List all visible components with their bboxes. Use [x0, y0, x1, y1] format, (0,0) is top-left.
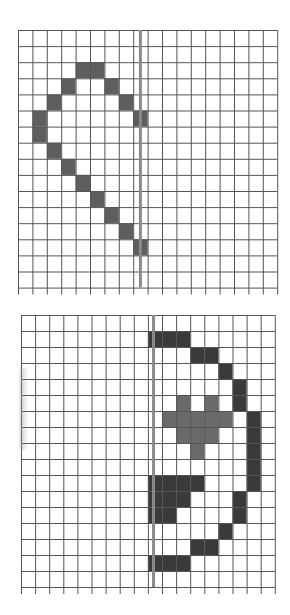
- filled-cell: [176, 555, 190, 571]
- filled-cell: [61, 159, 75, 175]
- filled-cell: [218, 523, 232, 539]
- filled-cell: [162, 555, 176, 571]
- filled-cell: [233, 379, 247, 395]
- filled-cell: [76, 62, 90, 78]
- filled-cell: [204, 427, 218, 443]
- filled-cell: [190, 427, 204, 443]
- filled-cell: [218, 363, 232, 379]
- filled-cell: [190, 347, 204, 363]
- filled-cell: [247, 443, 261, 459]
- scan-smudge: [20, 368, 28, 450]
- filled-cell: [104, 207, 118, 223]
- top-grid-figure: [18, 30, 279, 298]
- filled-cell: [119, 94, 133, 110]
- filled-cell: [176, 331, 190, 347]
- filled-cell: [204, 411, 218, 427]
- filled-cell: [104, 78, 118, 94]
- filled-cell: [162, 507, 176, 523]
- filled-cell: [204, 395, 218, 411]
- filled-cell: [176, 491, 190, 507]
- filled-cell: [247, 411, 261, 427]
- filled-cell: [47, 94, 61, 110]
- filled-cell: [32, 111, 46, 127]
- filled-cell: [176, 475, 190, 491]
- filled-cell: [233, 395, 247, 411]
- filled-cell: [76, 175, 90, 191]
- bottom-grid-svg: [21, 315, 277, 597]
- filled-cell: [61, 78, 75, 94]
- filled-cell: [247, 459, 261, 475]
- filled-cell: [204, 347, 218, 363]
- filled-cell: [47, 143, 61, 159]
- top-grid-svg: [18, 30, 279, 298]
- filled-cell: [90, 191, 104, 207]
- filled-cell: [176, 411, 190, 427]
- filled-cell: [162, 491, 176, 507]
- filled-cell: [190, 475, 204, 491]
- filled-cell: [176, 427, 190, 443]
- filled-cell: [162, 411, 176, 427]
- filled-cell: [247, 475, 261, 491]
- filled-cell: [233, 491, 247, 507]
- filled-cell: [190, 443, 204, 459]
- filled-cell: [233, 507, 247, 523]
- filled-cell: [204, 539, 218, 555]
- filled-cell: [32, 127, 46, 143]
- filled-cell: [190, 411, 204, 427]
- filled-cell: [162, 331, 176, 347]
- filled-cell: [176, 395, 190, 411]
- filled-cell: [218, 411, 232, 427]
- filled-cell: [162, 475, 176, 491]
- filled-cell: [119, 223, 133, 239]
- bottom-grid-figure: [21, 315, 277, 597]
- filled-cell: [90, 62, 104, 78]
- filled-cell: [247, 427, 261, 443]
- filled-cell: [190, 539, 204, 555]
